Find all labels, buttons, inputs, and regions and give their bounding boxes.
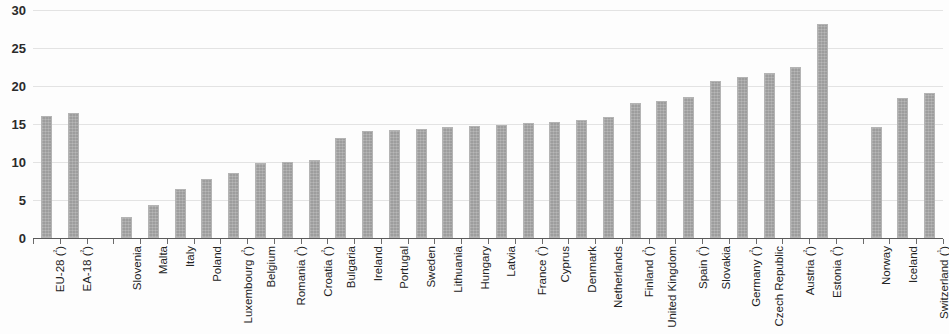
y-tick-label: 10: [12, 155, 26, 170]
bar: [362, 131, 373, 238]
x-tick: [327, 239, 328, 244]
bar: [68, 113, 79, 238]
x-axis-label: Bulgaria: [346, 246, 357, 288]
x-axis-label: Sweden: [426, 246, 437, 288]
bar: [335, 138, 346, 238]
x-tick: [702, 239, 703, 244]
bar: [710, 81, 721, 238]
x-axis-label: Latvia: [506, 246, 517, 277]
bar: [576, 120, 587, 238]
x-axis-label: France (²): [533, 246, 548, 295]
y-tick-label: 0: [19, 231, 26, 246]
bar: [41, 116, 52, 238]
x-axis-label: United Kingdom: [667, 246, 678, 328]
y-axis: 051015202530: [0, 0, 30, 245]
x-axis-label: Switzerland (¹): [935, 246, 949, 319]
bar: [549, 122, 560, 238]
bar: [764, 73, 775, 238]
bar: [148, 205, 159, 238]
x-axis-labels: EU-28 (²)EA-18 (²)SloveniaMaltaItalyPola…: [33, 246, 943, 334]
x-tick: [595, 239, 596, 244]
bar: [175, 189, 186, 238]
bar: [924, 93, 935, 238]
bar: [255, 163, 266, 238]
bar: [683, 97, 694, 238]
x-tick: [622, 239, 623, 244]
x-axis-label: Slovakia: [721, 246, 732, 289]
bar: [656, 101, 667, 238]
x-tick: [87, 239, 88, 244]
x-axis-label: Norway: [881, 246, 892, 285]
bar: [496, 125, 507, 238]
x-axis-label: Czech Republic: [774, 246, 785, 327]
x-axis-label: EA-18 (²): [78, 246, 93, 292]
bar: [790, 67, 801, 238]
x-tick: [782, 239, 783, 244]
x-tick: [943, 239, 944, 244]
x-tick: [140, 239, 141, 244]
bar: [309, 160, 320, 238]
x-axis-label: Hungary: [480, 246, 491, 289]
bar: [442, 127, 453, 238]
x-tick: [542, 239, 543, 244]
bar: [282, 162, 293, 238]
x-axis-label: Ireland: [373, 246, 384, 281]
x-axis-label: Luxembourg (²): [239, 246, 254, 323]
bar: [523, 123, 534, 238]
bar: [630, 103, 641, 238]
x-axis-label: Lithuania: [453, 246, 464, 293]
x-axis-label: Slovenia: [132, 246, 143, 290]
x-tick: [194, 239, 195, 244]
x-axis-label: EU-28 (²): [51, 246, 66, 292]
x-tick: [889, 239, 890, 244]
x-axis-label: Finland (²): [640, 246, 655, 297]
x-axis-label: Poland: [212, 246, 223, 282]
x-tick: [729, 239, 730, 244]
x-tick: [461, 239, 462, 244]
x-tick: [515, 239, 516, 244]
x-tick: [274, 239, 275, 244]
x-axis-label: Spain (²): [694, 246, 709, 289]
x-tick: [354, 239, 355, 244]
bar: [897, 98, 908, 238]
x-axis-label: Cyprus: [560, 246, 571, 282]
bar: [603, 117, 614, 238]
bar: [416, 129, 427, 238]
x-axis-label: Iceland: [908, 246, 919, 283]
y-tick-label: 20: [12, 79, 26, 94]
x-tick: [568, 239, 569, 244]
x-tick: [220, 239, 221, 244]
bar: [737, 77, 748, 238]
x-axis-label: Denmark: [587, 246, 598, 293]
bar: [469, 126, 480, 238]
bar: [121, 217, 132, 238]
y-tick-label: 30: [12, 3, 26, 18]
x-axis-label: Netherlands: [613, 246, 624, 308]
y-tick-label: 5: [19, 193, 26, 208]
x-tick: [301, 239, 302, 244]
y-tick-label: 25: [12, 41, 26, 56]
x-tick: [836, 239, 837, 244]
x-axis-label: Malta: [158, 246, 169, 274]
x-tick: [649, 239, 650, 244]
bar: [228, 173, 239, 238]
bar-chart: 051015202530 EU-28 (²)EA-18 (²)SloveniaM…: [0, 0, 949, 334]
y-tick-label: 15: [12, 117, 26, 132]
x-tick: [434, 239, 435, 244]
bar: [817, 24, 828, 238]
x-tick: [408, 239, 409, 244]
x-axis-label: Estonia (²): [828, 246, 843, 298]
bar: [389, 130, 400, 238]
x-axis-label: Italy: [185, 246, 196, 267]
x-axis-ticks: [33, 239, 943, 245]
x-axis-label: Belgium: [266, 246, 277, 288]
x-tick: [675, 239, 676, 244]
bar: [201, 179, 212, 238]
x-tick: [33, 239, 34, 244]
x-tick: [60, 239, 61, 244]
x-tick: [488, 239, 489, 244]
x-axis-label: Portugal: [399, 246, 410, 289]
x-tick: [863, 239, 864, 244]
x-tick: [113, 239, 114, 244]
x-axis-label: Croatia (²): [319, 246, 334, 297]
